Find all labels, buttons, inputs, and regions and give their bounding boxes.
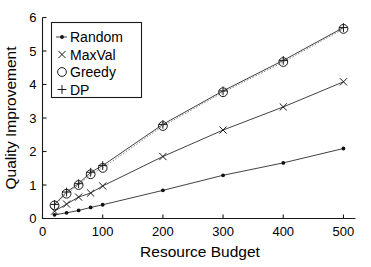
x-marker [87,189,94,196]
x-tick-label: 500 [333,224,355,239]
y-tick-label: 0 [29,211,36,226]
dot-marker [89,206,93,210]
dot-marker [101,203,105,207]
y-tick-label: 1 [29,178,36,193]
series-maxval [51,78,347,215]
legend-label: DP [70,82,89,98]
x-tick-label: 0 [39,224,46,239]
x-tick-label: 100 [92,224,114,239]
x-marker [280,103,287,110]
dot-marker [77,209,81,213]
x-marker [340,78,347,85]
y-tick-label: 4 [29,77,36,92]
line-chart: 0123456 0100200300400500 Quality Improve… [0,0,371,267]
legend-label: Greedy [70,64,116,80]
x-tick-label: 300 [212,224,234,239]
y-axis-ticks: 0123456 [29,10,46,226]
x-axis-label: Resource Budget [140,243,260,260]
plus-marker [219,86,228,95]
x-marker [75,193,82,200]
plus-marker [158,120,167,129]
y-tick-label: 3 [29,111,36,126]
x-marker [159,153,166,160]
x-marker [99,182,106,189]
legend: RandomMaxValGreedyDP [52,23,142,98]
y-axis-label: Quality Improvement [2,46,19,190]
dot-marker [60,35,64,39]
plus-marker [279,56,288,65]
dot-marker [342,147,346,151]
y-tick-label: 5 [29,44,36,59]
legend-label: Random [70,29,123,45]
dot-marker [281,161,285,165]
dot-marker [65,211,69,215]
chart-figure: 0123456 0100200300400500 Quality Improve… [0,0,371,267]
legend-label: MaxVal [70,47,116,63]
series-random [53,147,346,217]
series-line [55,82,344,211]
dot-marker [53,213,57,217]
x-marker [219,126,226,133]
x-marker [63,200,70,207]
y-tick-label: 6 [29,10,36,25]
dot-marker [161,188,165,192]
dot-marker [221,173,225,177]
plus-marker [98,161,107,170]
y-tick-label: 2 [29,144,36,159]
x-tick-label: 200 [152,224,174,239]
x-tick-label: 400 [272,224,294,239]
series-line [55,148,344,214]
